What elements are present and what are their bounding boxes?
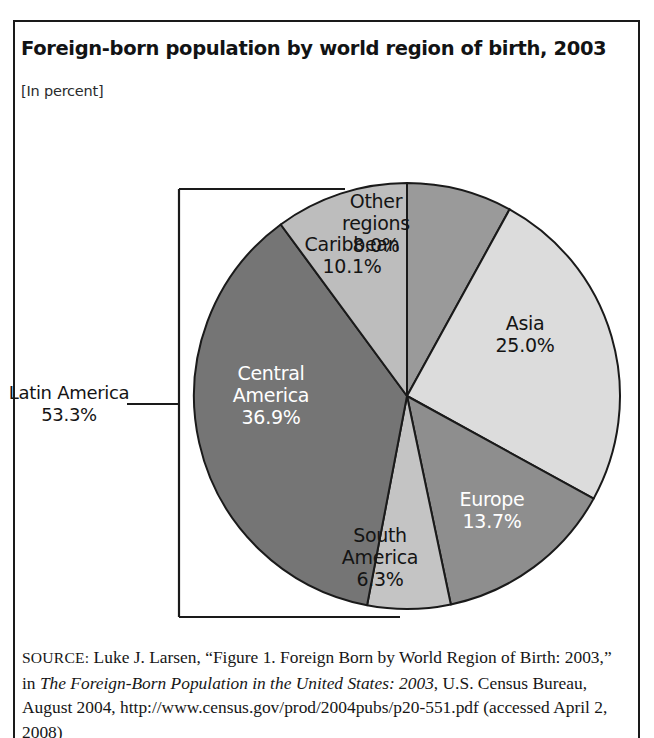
- source-keyword: SOURCE:: [22, 649, 89, 666]
- slice-label-europe: Europe 13.7%: [437, 488, 547, 532]
- slice-label-south-america: South America 6.3%: [325, 524, 435, 590]
- source-publication-title: The Foreign-Born Population in the Unite…: [40, 673, 434, 693]
- header-clip-mask: [0, 0, 654, 7]
- slice-label-central-america: Central America 36.9%: [207, 362, 335, 428]
- source-citation: SOURCE: Luke J. Larsen, “Figure 1. Forei…: [22, 645, 622, 738]
- bracket-label-latin-america: Latin America 53.3%: [8, 382, 130, 426]
- pie-chart: Other regions 8.0% Asia 25.0% Europe 13.…: [0, 0, 654, 738]
- slice-label-caribbean: Caribbean 10.1%: [284, 233, 420, 277]
- slice-label-asia: Asia 25.0%: [470, 312, 580, 356]
- figure-page: FIGURE 1.1 Foreign-born population by wo…: [0, 0, 654, 738]
